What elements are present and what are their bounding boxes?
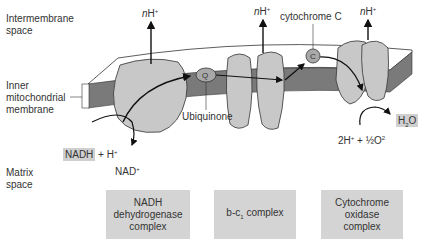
matrix-space-label: Matrixspace (6, 167, 33, 191)
nadh-dehydrogenase-protein (113, 59, 187, 132)
ubiquinone-label: Ubiquinone (182, 111, 233, 123)
inner-membrane-label: Innermitochondrialmembrane (6, 80, 65, 116)
cytochrome-oxidase-complex-box: Cytochromeoxidasecomplex (321, 190, 403, 239)
cytochrome-c-label: cytochrome C (280, 11, 342, 23)
intermembrane-space-label: Intermembranespace (6, 13, 74, 37)
nadh-dehydrogenase-complex-box: NADHdehydrogenasecomplex (106, 190, 190, 239)
bc1-protein-right (257, 52, 285, 129)
bc1-complex-box: b-c1 complex (214, 190, 296, 239)
nadh-reactant: NADH + H+ (63, 146, 117, 161)
proton-label-2: nH+ (254, 3, 270, 18)
oxygen-reactant: 2H+ + ½O2 (338, 132, 385, 147)
cytochrome-oxidase-protein-right (362, 41, 389, 100)
nad-product: NAD+ (115, 163, 140, 178)
proton-label-1: nH+ (142, 5, 158, 20)
ubiquinone-symbol: Q (202, 70, 208, 82)
water-product: H2O (396, 115, 418, 131)
cytochrome-c-symbol: C (310, 51, 316, 63)
proton-label-3: nH+ (360, 3, 376, 18)
